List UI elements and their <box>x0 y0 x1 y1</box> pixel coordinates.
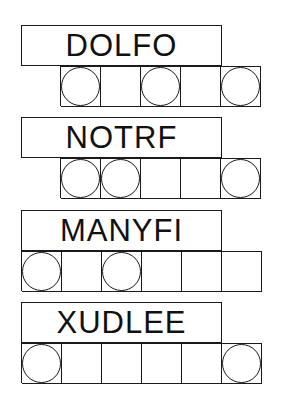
answer-cell-circled[interactable] <box>221 67 261 107</box>
answer-cell[interactable] <box>181 67 221 107</box>
answer-cell-circled[interactable] <box>141 67 181 107</box>
answer-cell-circled[interactable] <box>221 159 261 199</box>
answer-cell[interactable] <box>141 159 181 199</box>
answer-cells <box>21 343 262 383</box>
answer-cell[interactable] <box>62 344 102 384</box>
jumble-1: DOLFO <box>0 25 285 107</box>
answer-cell-circled[interactable] <box>61 159 101 199</box>
answer-cell[interactable] <box>142 344 182 384</box>
answer-cell-circled[interactable] <box>101 159 141 199</box>
answer-cell[interactable] <box>222 252 262 292</box>
scrambled-word: NOTRF <box>21 117 222 158</box>
answer-cell[interactable] <box>182 344 222 384</box>
answer-cell-circled[interactable] <box>222 344 262 384</box>
scrambled-word: XUDLEE <box>21 302 222 343</box>
answer-cell[interactable] <box>62 252 102 292</box>
answer-cell[interactable] <box>102 344 142 384</box>
answer-cell-circled[interactable] <box>22 344 62 384</box>
answer-cell[interactable] <box>181 159 221 199</box>
scrambled-word: DOLFO <box>21 25 222 66</box>
answer-cell-circled[interactable] <box>61 67 101 107</box>
jumble-2: NOTRF <box>0 117 285 199</box>
answer-cell[interactable] <box>101 67 141 107</box>
jumble-3: MANYFI <box>0 210 285 292</box>
answer-cell[interactable] <box>182 252 222 292</box>
answer-cells <box>21 251 262 291</box>
answer-cell-circled[interactable] <box>102 252 142 292</box>
answer-cell[interactable] <box>142 252 182 292</box>
word-jumble-puzzle: DOLFO NOTRF MANYFI XUDLEE <box>0 0 285 409</box>
answer-cells <box>60 66 261 106</box>
jumble-4: XUDLEE <box>0 302 285 384</box>
answer-cell-circled[interactable] <box>22 252 62 292</box>
answer-cells <box>60 158 261 198</box>
scrambled-word: MANYFI <box>21 210 222 251</box>
